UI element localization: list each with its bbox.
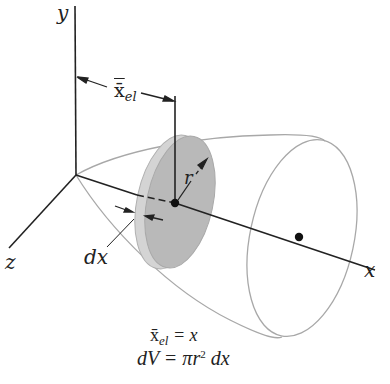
diagram-canvas: y x z x̄el r dx x̄el = x dV = πr2 dx — [0, 0, 390, 384]
x-axis-front-left — [76, 175, 137, 195]
x-axis — [175, 203, 375, 270]
solid-outline — [76, 129, 374, 346]
equation-xel: x̄el = x — [150, 326, 198, 347]
xel-symbol: x̄ — [114, 79, 125, 101]
x-axis-label: x — [364, 260, 375, 280]
y-axis — [75, 6, 76, 175]
eq1-lhs: x̄ — [150, 325, 159, 345]
dx-label: dx — [84, 247, 108, 267]
disk-centroid-point — [171, 199, 179, 207]
z-axis — [9, 175, 76, 248]
arrowhead-left — [77, 77, 88, 83]
equation-dv: dV = πr2 dx — [137, 348, 230, 368]
solid-centroid-point — [295, 233, 303, 241]
z-axis-label: z — [5, 252, 16, 272]
radius-label: r — [184, 169, 193, 187]
xel-label: x̄el — [114, 81, 137, 103]
eq1-sub: el — [159, 333, 168, 348]
eq1-rhs: = x — [168, 325, 197, 345]
eq2-rhs: dx — [206, 347, 230, 369]
arrowhead-right — [163, 96, 174, 101]
eq2-mid: = πr — [159, 347, 200, 369]
eq2-lhs: dV — [137, 347, 159, 369]
y-axis-label: y — [57, 3, 68, 23]
xel-subscript: el — [125, 89, 137, 104]
